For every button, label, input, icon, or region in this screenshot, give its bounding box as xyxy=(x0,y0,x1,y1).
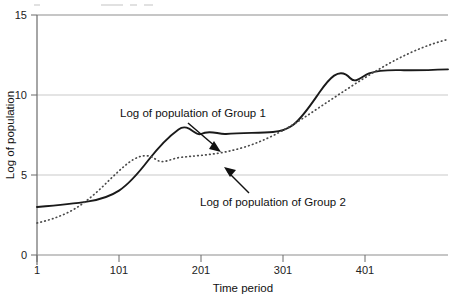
annotation-label-group-1: Log of population of Group 1 xyxy=(120,107,266,119)
annotation-label-group-2: Log of population of Group 2 xyxy=(200,196,346,208)
annotation-group-1: Log of population of Group 1 xyxy=(120,107,266,152)
x-tick-marks xyxy=(37,255,365,262)
annotation-arrow-line-group-1 xyxy=(188,123,216,147)
gridlines xyxy=(37,15,448,175)
x-tick-label-101: 101 xyxy=(110,264,128,276)
line-chart: 15 10 5 0 1 101 201 301 401 Time period … xyxy=(0,0,455,299)
y-tick-label-5: 5 xyxy=(21,169,27,181)
y-tick-labels: 15 10 5 0 xyxy=(15,9,27,261)
y-tick-marks xyxy=(31,15,37,255)
x-axis-title: Time period xyxy=(213,282,273,294)
x-tick-label-201: 201 xyxy=(192,264,210,276)
y-tick-label-0: 0 xyxy=(21,249,27,261)
figure-container: 15 10 5 0 1 101 201 301 401 Time period … xyxy=(0,0,455,299)
x-tick-label-1: 1 xyxy=(34,264,40,276)
x-tick-labels: 1 101 201 301 401 xyxy=(34,264,374,276)
y-tick-label-15: 15 xyxy=(15,9,27,21)
y-axis-title: Log of population xyxy=(4,91,16,179)
x-tick-label-401: 401 xyxy=(356,264,374,276)
x-tick-label-301: 301 xyxy=(274,264,292,276)
annotation-group-2: Log of population of Group 2 xyxy=(200,167,346,208)
axes-lines xyxy=(37,15,448,265)
y-tick-label-10: 10 xyxy=(15,89,27,101)
